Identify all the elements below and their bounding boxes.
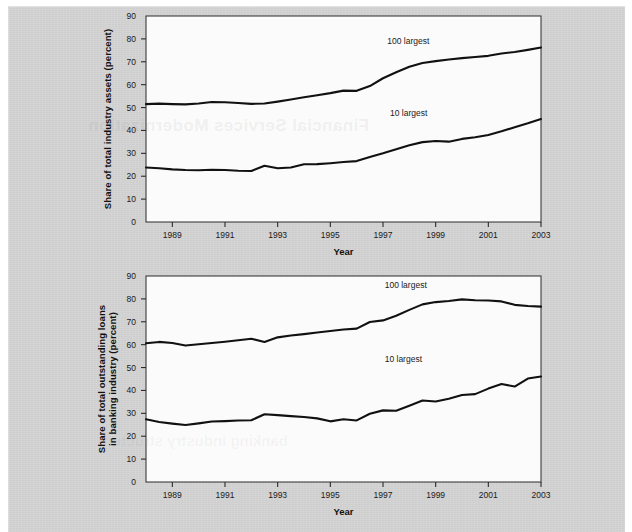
- y-axis-tick-label: 90: [118, 12, 136, 20]
- y-axis-tick-label: 50: [118, 104, 136, 112]
- y-axis-tick-label: 60: [118, 81, 136, 89]
- x-axis-tick-label: 1999: [421, 491, 451, 500]
- y-axis-tick-label: 30: [118, 409, 136, 417]
- y-axis-tick-label: 0: [118, 218, 136, 226]
- chart-top-svg: [68, 8, 568, 258]
- y-axis-title: Share of total outstanding loansin banki…: [96, 276, 118, 482]
- y-axis-tick-label: 70: [118, 58, 136, 66]
- x-axis-tick-label: 1991: [210, 231, 240, 240]
- y-axis-tick-label: 80: [118, 35, 136, 43]
- y-axis-tick-label: 30: [118, 149, 136, 157]
- series-annotation-label: 100 largest: [385, 280, 427, 290]
- x-axis-title: Year: [304, 506, 384, 517]
- x-axis-tick-label: 1997: [368, 231, 398, 240]
- y-axis-tick-label: 20: [118, 172, 136, 180]
- series-annotation-label: 100 largest: [387, 36, 429, 46]
- y-axis-title: Share of total industry assets (percent): [102, 16, 113, 222]
- x-axis-tick-label: 2003: [526, 491, 556, 500]
- chart-outstanding-loans: banking industry structure 0102030405060…: [68, 262, 568, 531]
- x-axis-tick-label: 1995: [315, 231, 345, 240]
- x-axis-tick-label: 1993: [263, 491, 293, 500]
- y-axis-tick-label: 70: [118, 318, 136, 326]
- x-axis-tick-label: 2001: [473, 491, 503, 500]
- y-axis-tick-label: 50: [118, 364, 136, 372]
- x-axis-tick-label: 2001: [473, 231, 503, 240]
- series-annotation-label: 10 largest: [385, 354, 422, 364]
- x-axis-tick-label: 1997: [368, 491, 398, 500]
- y-axis-tick-label: 40: [118, 126, 136, 134]
- y-axis-tick-label: 60: [118, 341, 136, 349]
- y-axis-tick-label: 10: [118, 195, 136, 203]
- plot-area-top: Financial Services Modernization 0102030…: [68, 8, 568, 258]
- x-axis-tick-label: 1999: [421, 231, 451, 240]
- chart-industry-assets: Financial Services Modernization 0102030…: [68, 8, 568, 258]
- x-axis-title: Year: [304, 246, 384, 257]
- y-axis-tick-label: 20: [118, 432, 136, 440]
- series-annotation-label: 10 largest: [390, 108, 427, 118]
- x-axis-tick-label: 1995: [315, 491, 345, 500]
- y-axis-tick-label: 80: [118, 295, 136, 303]
- plot-area-bottom: banking industry structure 0102030405060…: [68, 262, 568, 531]
- x-axis-tick-label: 1993: [263, 231, 293, 240]
- y-axis-tick-label: 90: [118, 272, 136, 280]
- y-axis-tick-label: 0: [118, 478, 136, 486]
- y-axis-tick-label: 40: [118, 386, 136, 394]
- x-axis-tick-label: 1989: [157, 231, 187, 240]
- x-axis-tick-label: 1989: [157, 491, 187, 500]
- y-axis-tick-label: 10: [118, 455, 136, 463]
- x-axis-tick-label: 1991: [210, 491, 240, 500]
- x-axis-tick-label: 2003: [526, 231, 556, 240]
